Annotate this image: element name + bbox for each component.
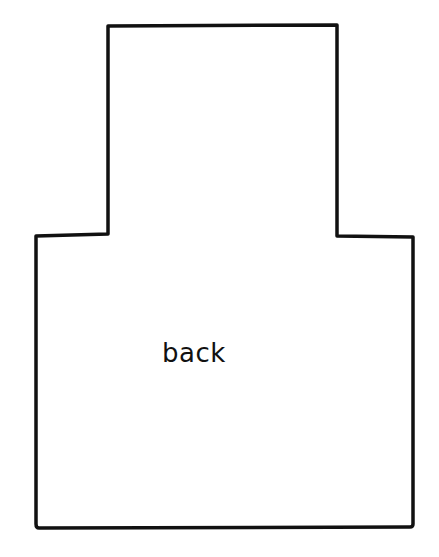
piece-label: back [162, 337, 226, 369]
pattern-outline [0, 0, 439, 557]
outline-path [36, 25, 413, 528]
